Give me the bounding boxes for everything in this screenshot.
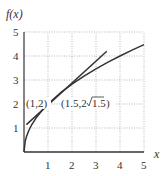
x-tick-label: 2: [69, 159, 75, 171]
x-tick-label: 1: [45, 159, 51, 171]
secant-line: [26, 51, 106, 124]
point2-label-prefix: (1.5,2: [61, 97, 87, 110]
y-axis-label: f(x): [6, 7, 23, 21]
x-tick-label: 4: [117, 159, 123, 171]
x-axis-label: x: [153, 147, 160, 161]
point2-label: (1.5,2 1.5 ): [61, 97, 110, 110]
y-tick-labels: 1 2 3 4 5: [13, 26, 19, 134]
y-tick-label: 4: [13, 50, 19, 62]
point2-label-radicand: 1.5: [92, 97, 106, 109]
x-tick-label: 3: [93, 159, 99, 171]
x-tick-label: 5: [141, 159, 147, 171]
y-tick-label: 3: [13, 74, 19, 86]
point1-label: (1,2): [26, 97, 47, 110]
y-tick-label: 2: [13, 98, 19, 110]
grid: [24, 32, 144, 152]
x-tick-labels: 1 2 3 4 5: [45, 159, 147, 171]
axes: [24, 32, 144, 152]
function-plot: f(x) x 1 2 3 4 5 1 2 3 4 5 (1,2) (1.5,2 …: [0, 0, 166, 176]
y-tick-label: 1: [13, 122, 19, 134]
y-tick-label: 5: [13, 26, 19, 38]
point2-label-suffix: ): [106, 97, 110, 110]
